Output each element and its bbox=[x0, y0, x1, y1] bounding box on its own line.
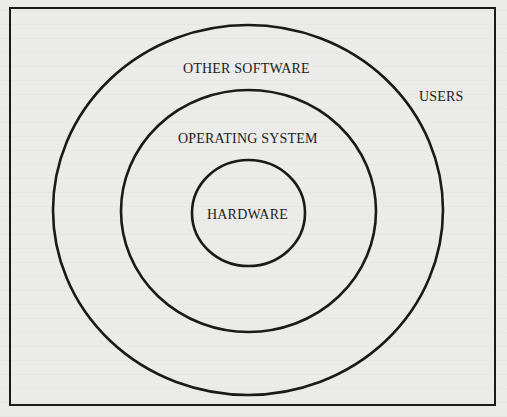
label-users: USERS bbox=[419, 89, 464, 105]
label-hardware: HARDWARE bbox=[207, 207, 288, 223]
label-other-software: OTHER SOFTWARE bbox=[183, 61, 310, 77]
label-operating-system: OPERATING SYSTEM bbox=[178, 131, 318, 147]
